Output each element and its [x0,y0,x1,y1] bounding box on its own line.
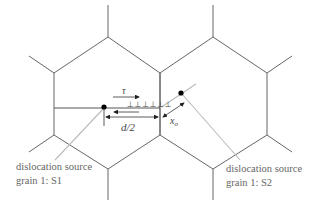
tau-label: τ [122,85,126,96]
source2-label-line1: dislocation source [226,163,302,174]
source1-label-line1: dislocation source [16,161,92,172]
source-dot-s2 [178,90,183,95]
d2-label: d/2 [121,121,136,133]
leader-line-s1 [55,108,104,160]
diagram-canvas: τ ⊥⊥⊥⊥⊥⊥ d/2 xo dislocation source grain… [0,0,316,210]
leader-line-s2 [182,94,240,160]
source2-label-line2: grain 1: S2 [226,177,272,188]
dislocation-pileup: ⊥⊥⊥⊥⊥⊥ [127,100,172,109]
source1-label-line2: grain 1: S1 [16,175,62,186]
x0-label: xo [169,115,178,128]
